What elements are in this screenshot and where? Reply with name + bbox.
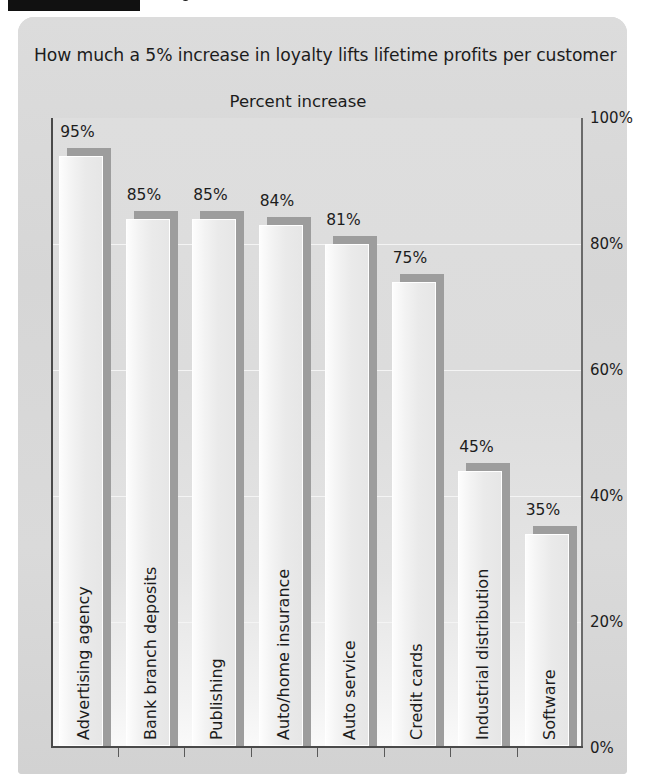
bar-shadow-right [236, 219, 244, 747]
bar-shadow-top [267, 217, 311, 225]
plot-area: 95%85%85%84%81%75%45%35% Advertising age… [51, 118, 583, 748]
bar-shadow-right [569, 534, 577, 747]
bar-shadow-right [170, 219, 178, 747]
bar-value-label: 75% [393, 249, 427, 267]
y-axis-tick-label: 40% [590, 487, 623, 505]
y-axis-right-line [581, 118, 583, 748]
bar-shadow-right [103, 156, 111, 747]
bar-shadow-top [134, 211, 178, 219]
bar-shadow-top [333, 236, 377, 244]
bar-value-label: 85% [127, 186, 161, 204]
bar-value-label: 84% [260, 192, 294, 210]
x-axis-category-label: Auto service [340, 640, 359, 740]
y-axis-tick-label: 60% [590, 361, 623, 379]
x-axis-category-label: Industrial distribution [473, 569, 492, 740]
bar-value-label: 95% [60, 123, 94, 141]
bar-shadow-top [200, 211, 244, 219]
chart-panel: How much a 5% increase in loyalty lifts … [18, 17, 627, 774]
y-axis-tick-label: 100% [590, 109, 633, 127]
figure-caption-dot [182, 0, 189, 1]
x-axis-tick [317, 748, 318, 757]
bar-value-label: 85% [193, 186, 227, 204]
bar-value-label: 81% [326, 211, 360, 229]
y-axis-left-line [51, 118, 53, 748]
x-axis-tick [517, 748, 518, 757]
bar-value-label: 35% [526, 501, 560, 519]
bar-shadow-top [533, 526, 577, 534]
bar-shadow-top [466, 463, 510, 471]
x-axis-category-label: Auto/home insurance [274, 569, 293, 740]
x-axis-tick [251, 748, 252, 757]
x-axis-tick [184, 748, 185, 757]
x-axis-category-label: Publishing [207, 658, 226, 740]
bar-shadow-top [400, 274, 444, 282]
x-axis-tick [450, 748, 451, 757]
x-axis-line [51, 746, 583, 748]
x-axis-tick [118, 748, 119, 757]
x-axis-category-label: Advertising agency [74, 586, 93, 740]
bar-shadow-top [67, 148, 111, 156]
y-axis-tick-label: 80% [590, 235, 623, 253]
bar-shadow-right [303, 225, 311, 746]
y-axis-tick-label: 20% [590, 613, 623, 631]
chart-subtitle: Percent increase [18, 92, 578, 111]
x-axis-category-label: Software [540, 669, 559, 740]
page-title: How much a 5% increase in loyalty lifts … [34, 45, 614, 65]
x-axis-tick [384, 748, 385, 757]
figure-caption-bar [8, 0, 140, 11]
y-axis-tick-label: 0% [590, 739, 614, 757]
x-axis-category-label: Bank branch deposits [141, 567, 160, 740]
bar-value-label: 45% [459, 438, 493, 456]
x-axis-category-label: Credit cards [407, 643, 426, 740]
bar-shadow-right [436, 282, 444, 747]
bar-shadow-right [369, 244, 377, 746]
bar-shadow-right [502, 471, 510, 747]
